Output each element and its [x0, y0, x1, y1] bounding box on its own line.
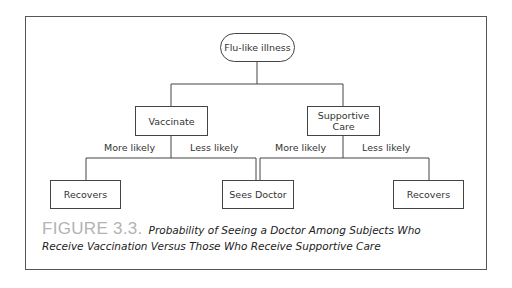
leaf-node-sees-doctor: Sees Doctor — [222, 180, 294, 209]
figure-caption-text-1: Probability of Seeing a Doctor Among Sub… — [149, 224, 421, 236]
leaf-node-label: Sees Doctor — [229, 189, 286, 200]
leaf-node-label: Recovers — [64, 189, 107, 200]
node-supportive-care-label-line1: Supportive — [318, 110, 370, 121]
edge-label-supportive-more-likely: More likely — [275, 142, 326, 153]
edge-label-vaccinate-more-likely: More likely — [104, 142, 155, 153]
edge-label-supportive-less-likely: Less likely — [362, 142, 410, 153]
figure-caption-line1: FIGURE 3.3.Probability of Seeing a Docto… — [42, 219, 421, 239]
leaf-node-recovers-left: Recovers — [50, 180, 121, 209]
node-supportive-care-label-line2: Care — [333, 121, 355, 132]
figure-number: FIGURE 3.3. — [42, 219, 143, 238]
figure-caption-text-2: Receive Vaccination Versus Those Who Rec… — [42, 240, 381, 252]
root-node-label: Flu-like illness — [224, 42, 291, 53]
leaf-node-recovers-right: Recovers — [393, 180, 464, 209]
root-node-flu-like-illness: Flu-like illness — [220, 33, 295, 62]
edge-label-vaccinate-less-likely: Less likely — [190, 142, 238, 153]
leaf-node-label: Recovers — [407, 189, 450, 200]
node-vaccinate-label: Vaccinate — [148, 116, 194, 127]
node-vaccinate: Vaccinate — [135, 106, 208, 136]
node-supportive-care: Supportive Care — [307, 106, 380, 136]
